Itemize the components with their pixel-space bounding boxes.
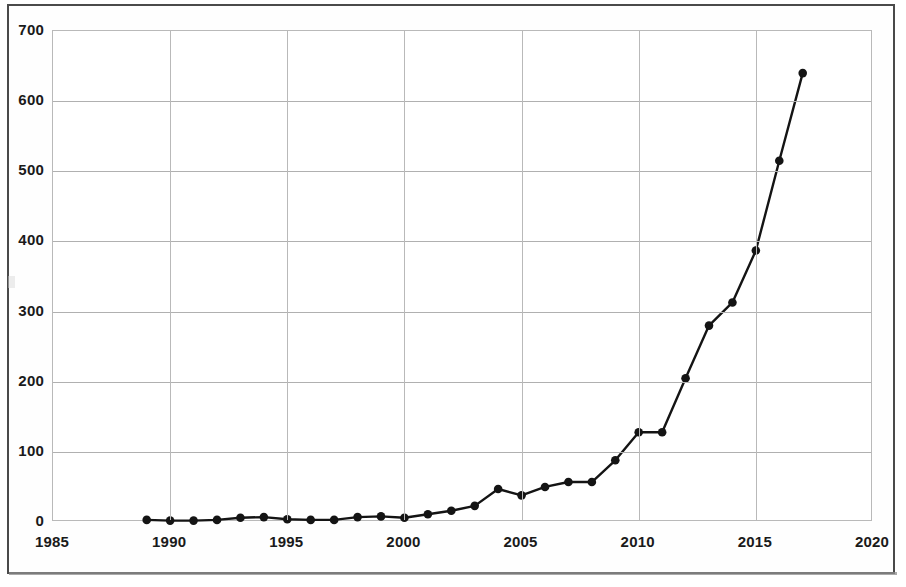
x-axis-tick-label: 1995: [269, 533, 303, 550]
x-axis-tick-label: 2015: [738, 533, 772, 550]
y-axis-tick-label: 200: [0, 372, 44, 389]
y-axis-tick-label: 300: [0, 302, 44, 319]
line-chart-figure: 0100200300400500600700 19851990199520002…: [0, 0, 906, 587]
x-axis-tick-label: 1985: [35, 533, 69, 550]
y-axis-tick-label: 0: [0, 512, 44, 529]
y-axis-tick-label: 100: [0, 442, 44, 459]
x-axis-tick-label: 2005: [503, 533, 537, 550]
x-axis-tick-label: 2010: [621, 533, 655, 550]
y-axis-tick-label: 500: [0, 161, 44, 178]
y-axis-tick-labels: 0100200300400500600700: [0, 0, 906, 587]
screenshot-page: 0100200300400500600700 19851990199520002…: [0, 0, 906, 587]
x-axis-tick-label: 2020: [855, 533, 889, 550]
x-axis-tick-labels: 19851990199520002005201020152020: [0, 533, 906, 559]
y-axis-tick-label: 600: [0, 91, 44, 108]
x-axis-tick-label: 2000: [386, 533, 420, 550]
x-axis-tick-label: 1990: [152, 533, 186, 550]
y-axis-tick-label: 400: [0, 231, 44, 248]
y-axis-tick-label: 700: [0, 21, 44, 38]
